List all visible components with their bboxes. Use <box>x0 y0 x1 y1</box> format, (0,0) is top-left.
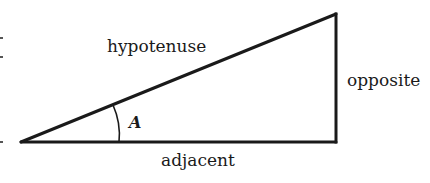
scan-mark <box>0 56 3 58</box>
triangle <box>21 14 336 142</box>
scan-mark <box>0 141 3 143</box>
hypotenuse-side <box>21 14 336 142</box>
angle-arc <box>113 105 119 142</box>
opposite-label: opposite <box>347 72 420 89</box>
scan-mark <box>0 37 3 39</box>
adjacent-label: adjacent <box>161 152 235 169</box>
angle-a-label: A <box>129 115 141 131</box>
hypotenuse-label: hypotenuse <box>107 38 206 55</box>
